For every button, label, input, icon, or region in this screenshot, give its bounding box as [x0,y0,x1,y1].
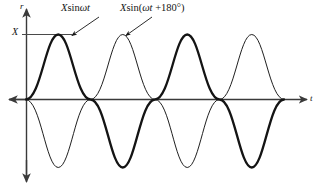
curve-1-omega-symbol: ω [80,2,87,13]
curve-2-function-name: sin [126,2,138,13]
curve-2-omega-symbol: ω [142,2,149,13]
curve-1-time-symbol: t [87,2,90,13]
curve-1-label: Xsinωt [61,3,90,14]
curve-2-label: Xsin(ωt +180°) [120,3,185,14]
curve-1-function-name: sin [67,2,79,13]
curve-2-phase-offset: +180° [153,2,182,13]
leader-lines [72,17,152,36]
amplitude-label: X [12,27,18,37]
sine-wave-plot [0,0,319,188]
curve-2-close-paren: ) [181,2,185,13]
y-axis-label: r [20,2,24,11]
axis-group [9,9,307,182]
thick-sine-curve [26,35,284,168]
leader-line-curve-2 [126,17,152,36]
thin-sine-curve [26,35,284,168]
figure-canvas: r t X Xsinωt Xsin(ωt +180°) [0,0,319,188]
leader-line-curve-1 [72,17,99,36]
x-axis-label: t [310,94,313,103]
